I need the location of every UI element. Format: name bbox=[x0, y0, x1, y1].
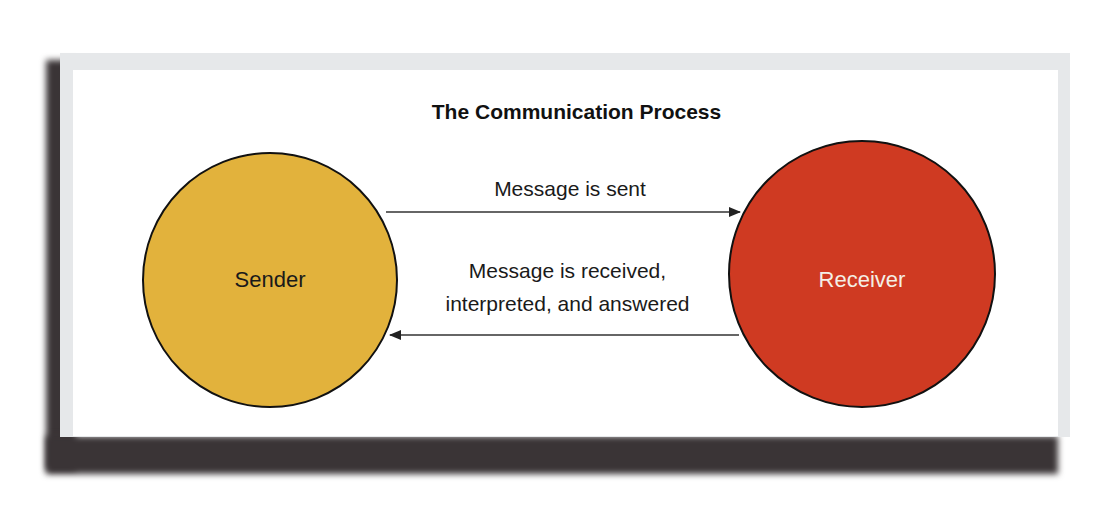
diagram-canvas bbox=[0, 0, 1103, 507]
edge-label-sent: Message is sent bbox=[400, 176, 740, 202]
sender-label: Sender bbox=[170, 267, 370, 293]
edge-label-received-line1: Message is received, bbox=[390, 258, 745, 284]
receiver-label: Receiver bbox=[762, 267, 962, 293]
edge-label-received-line2: interpreted, and answered bbox=[390, 291, 745, 317]
diagram-title: The Communication Process bbox=[0, 100, 1103, 124]
